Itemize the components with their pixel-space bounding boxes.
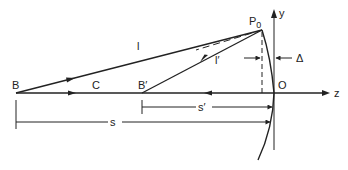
point-o-label: O: [278, 79, 287, 91]
p0-subscript: 0: [256, 20, 261, 30]
image-distance-label: s′: [198, 101, 206, 113]
y-axis-arrow-icon: [271, 9, 277, 18]
sag-label: Δ: [296, 52, 304, 64]
object-distance-label: s: [110, 116, 116, 128]
point-p0-label: P0: [249, 15, 261, 30]
diagram-canvas: z y Δ: [0, 0, 348, 170]
point-c-label: C: [92, 79, 100, 91]
z-axis-label: z: [334, 87, 340, 99]
y-axis-label: y: [279, 7, 285, 19]
incident-ray-arrow-icon: [66, 78, 75, 83]
reflected-ray: [142, 30, 262, 93]
point-b-label: B: [12, 79, 19, 91]
point-b-prime-label: B′: [138, 79, 147, 91]
axis-return-arrow-icon: [204, 91, 212, 96]
incident-ray-label: l: [137, 40, 139, 52]
p0-main: P: [249, 15, 256, 27]
image-distance-dimension: s′: [142, 100, 272, 114]
object-distance-dimension: s: [16, 100, 270, 129]
mirror-surface: [258, 30, 274, 160]
z-axis-arrow-icon: [322, 90, 330, 96]
axis-ray-arrow-icon: [68, 91, 76, 96]
z-axis: z: [16, 87, 340, 99]
reflected-ray-label: l′: [215, 54, 220, 66]
mirror-ray-diagram: z y Δ: [0, 0, 348, 170]
